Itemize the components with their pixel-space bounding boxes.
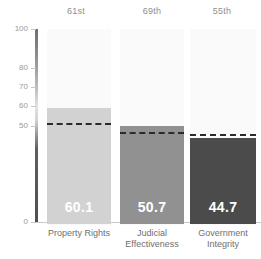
category-label-row: Property Rights Judicial Effectiveness G…	[0, 228, 261, 258]
y-tick-70	[31, 87, 36, 88]
y-tick-label-60: 60	[0, 102, 28, 110]
rank-label-property-rights: 61st	[42, 6, 110, 16]
y-tick-80	[31, 68, 36, 69]
y-tick-label-0: 0	[0, 218, 28, 226]
y-tick-label-50: 50	[0, 122, 28, 130]
rank-label-row: 61st 69th 55th	[0, 6, 261, 22]
y-tick-50	[31, 126, 36, 127]
y-tick-label-70: 70	[0, 83, 28, 91]
y-tick-label-80: 80	[0, 64, 28, 72]
bar-property-rights[interactable]: 60.1	[47, 108, 111, 224]
reference-line-government-integrity	[190, 134, 256, 136]
bar-judicial-effectiveness[interactable]: 50.7	[120, 126, 184, 224]
y-tick-100	[31, 29, 36, 30]
category-label-judicial-effectiveness: Judicial Effectiveness	[116, 228, 188, 250]
category-label-property-rights: Property Rights	[47, 228, 111, 239]
plot-area: 100 80 70 60 50 0 60.1 50.7 44.7	[0, 29, 261, 225]
bar-government-integrity[interactable]: 44.7	[190, 138, 256, 224]
y-tick-0	[31, 222, 36, 223]
rank-label-government-integrity: 55th	[188, 6, 256, 16]
bar-value-judicial-effectiveness: 50.7	[120, 199, 184, 215]
category-label-government-integrity: Government Integrity	[189, 228, 257, 250]
reference-line-property-rights	[47, 123, 111, 125]
bar-value-property-rights: 60.1	[47, 199, 111, 215]
bar-chart: 61st 69th 55th 100 80 70 60 50 0 60.1 5	[0, 0, 261, 259]
reference-line-judicial-effectiveness	[120, 132, 184, 134]
y-tick-label-100: 100	[0, 25, 28, 33]
y-tick-60	[31, 106, 36, 107]
bar-value-government-integrity: 44.7	[190, 199, 256, 215]
rank-label-judicial-effectiveness: 69th	[118, 6, 186, 16]
